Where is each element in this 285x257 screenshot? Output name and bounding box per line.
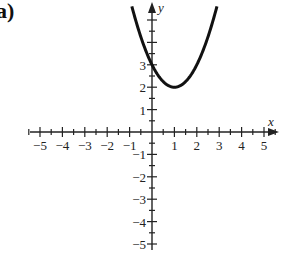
x-tick-label: −5 <box>33 138 47 153</box>
x-tick-label: 3 <box>216 138 223 153</box>
x-tick-label: −3 <box>78 138 92 153</box>
y-tick-label: −1 <box>132 147 146 162</box>
y-tick-label: 2 <box>140 80 147 95</box>
x-tick-label: 5 <box>261 138 268 153</box>
x-tick-label: −4 <box>55 138 69 153</box>
x-tick-label: 1 <box>171 138 178 153</box>
y-axis-label: y <box>156 0 164 15</box>
y-tick-label: 3 <box>140 58 147 73</box>
y-tick-label: −5 <box>132 237 146 252</box>
coordinate-plane: −5−4−3−2−112345321−1−2−3−4−5 x y <box>0 0 285 257</box>
parabola-curve <box>132 6 217 87</box>
x-axis-arrow-icon <box>268 128 279 136</box>
y-tick-label: −4 <box>132 215 146 230</box>
axes <box>30 2 279 250</box>
y-tick-label: 1 <box>140 103 147 118</box>
y-tick-label: −3 <box>132 192 146 207</box>
y-axis-arrow-icon <box>148 2 156 13</box>
x-tick-label: 4 <box>238 138 245 153</box>
x-tick-label: 2 <box>194 138 201 153</box>
x-axis-label: x <box>267 114 274 129</box>
x-tick-label: −2 <box>100 138 114 153</box>
y-tick-label: −2 <box>132 170 146 185</box>
